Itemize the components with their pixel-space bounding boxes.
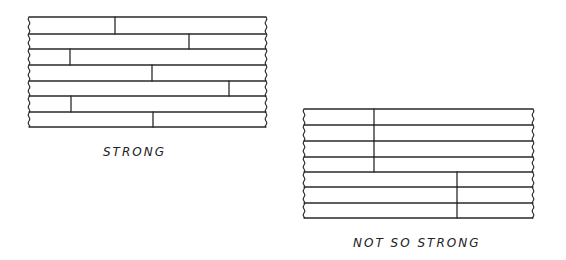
not-so-strong-caption: NOT SO STRONG bbox=[353, 236, 480, 250]
board-layout-diagram bbox=[0, 0, 566, 260]
strong-caption: STRONG bbox=[103, 145, 166, 159]
strong-board-pattern bbox=[28, 17, 267, 127]
not-so-strong-board-pattern bbox=[303, 109, 534, 218]
